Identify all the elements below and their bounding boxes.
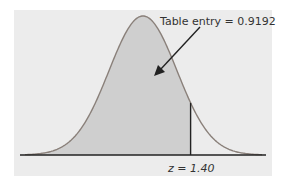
z-value-label: z = 1.40 xyxy=(167,162,214,175)
table-entry-label: Table entry = 0.9192 xyxy=(159,15,276,28)
shaded-area xyxy=(25,16,191,155)
normal-curve-chart: Table entry = 0.9192 z = 1.40 xyxy=(0,0,285,186)
